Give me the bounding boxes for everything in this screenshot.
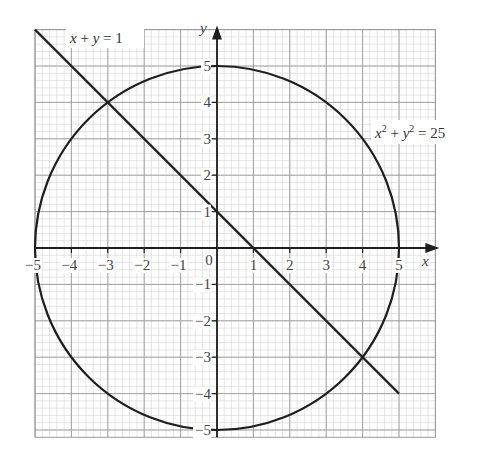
tick-label: −4 xyxy=(61,257,77,273)
y-axis-label: y xyxy=(198,20,207,36)
tick-label: 2 xyxy=(286,257,294,273)
svg-text:x + y = 1: x + y = 1 xyxy=(69,30,123,46)
tick-label: 3 xyxy=(204,131,212,147)
tick-label: −2 xyxy=(195,313,211,329)
circle-equation-label: x2 + y2 = 25 xyxy=(371,120,471,144)
tick-label: 4 xyxy=(359,257,367,273)
tick-label: −5 xyxy=(195,422,211,438)
line-equation-label: x + y = 1 xyxy=(66,28,144,48)
tick-label: 2 xyxy=(204,167,212,183)
tick-label: −3 xyxy=(195,349,211,365)
tick-label: 0 xyxy=(205,252,213,268)
tick-label: 3 xyxy=(322,257,330,273)
tick-label: 4 xyxy=(204,94,212,110)
tick-label: 5 xyxy=(395,257,403,273)
tick-label: −1 xyxy=(171,257,187,273)
tick-label: −5 xyxy=(25,257,41,273)
tick-label: 1 xyxy=(250,257,258,273)
graph-plot: −5−4−3−2−1012345−5−4−3−2−112345 y x x + … xyxy=(0,0,491,457)
tick-label: −1 xyxy=(195,276,211,292)
tick-label: −2 xyxy=(134,257,150,273)
tick-label: −3 xyxy=(98,257,114,273)
x-axis-label: x xyxy=(421,253,429,269)
tick-label: 5 xyxy=(204,58,212,74)
tick-label: 1 xyxy=(204,204,212,220)
tick-label: −4 xyxy=(195,386,211,402)
